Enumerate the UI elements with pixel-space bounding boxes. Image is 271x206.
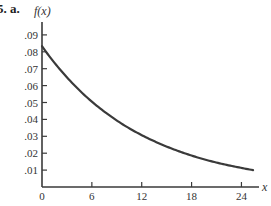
density-curve <box>42 46 253 170</box>
x-axis-label: x <box>261 180 268 194</box>
y-axis-ticks: .01.02.03.04.05.06.07.08.09 <box>24 29 47 176</box>
y-tick-label: .04 <box>24 113 38 125</box>
x-tick-label: 12 <box>136 190 147 202</box>
exponential-density-chart: .01.02.03.04.05.06.07.08.09 06121824 f(x… <box>0 0 271 206</box>
x-tick-label: 18 <box>186 190 198 202</box>
x-axis-ticks: 06121824 <box>39 182 247 202</box>
y-tick-label: .07 <box>24 63 38 75</box>
y-axis-label: f(x) <box>34 4 51 18</box>
x-tick-label: 6 <box>89 190 95 202</box>
y-tick-label: .08 <box>24 46 38 58</box>
y-tick-label: .01 <box>24 164 38 176</box>
y-tick-label: .03 <box>24 130 38 142</box>
y-tick-label: .05 <box>24 97 38 109</box>
y-tick-label: .09 <box>24 29 38 41</box>
x-tick-label: 24 <box>236 190 248 202</box>
y-tick-label: .06 <box>24 80 38 92</box>
axes <box>42 22 259 187</box>
y-tick-label: .02 <box>24 147 38 159</box>
x-tick-label: 0 <box>39 190 45 202</box>
